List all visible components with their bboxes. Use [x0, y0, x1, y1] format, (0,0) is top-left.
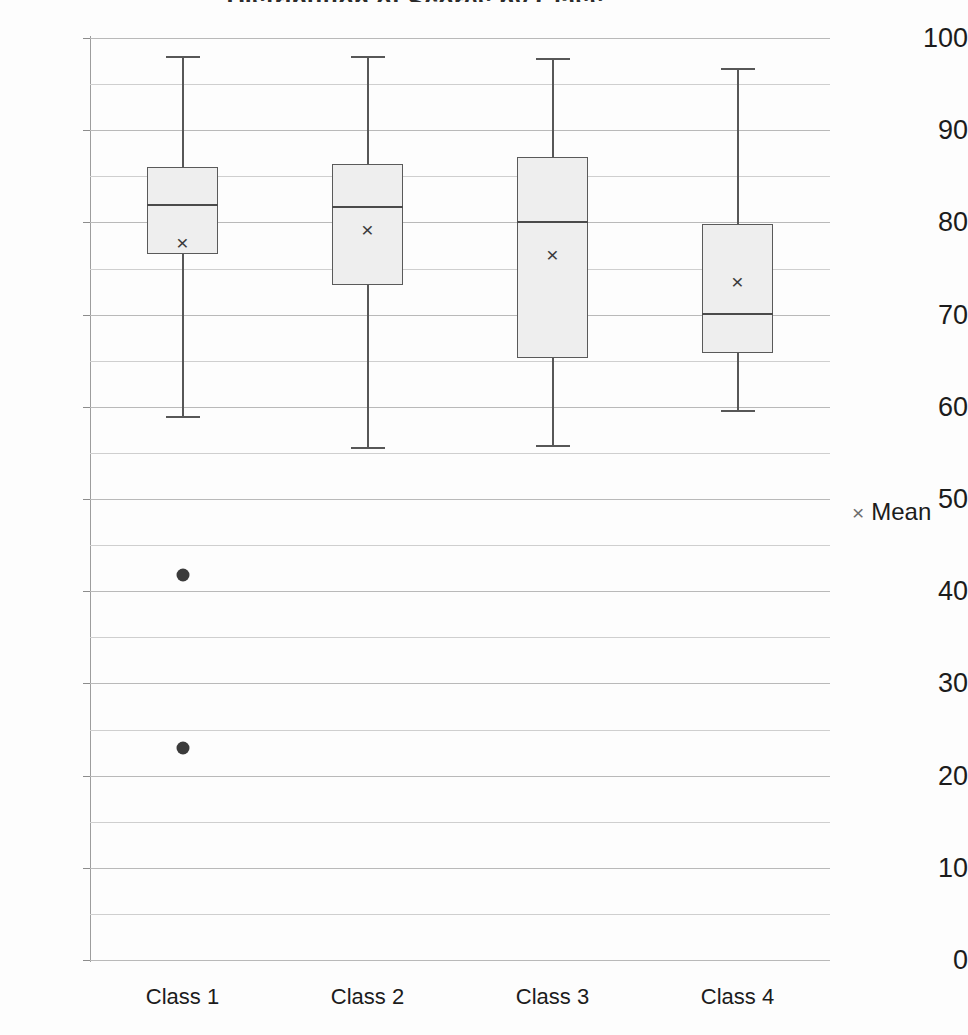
boxplot-chart-figure: Distribution of Scores by Class 10090807… — [0, 0, 968, 1035]
y-axis-tick-mark — [83, 407, 90, 408]
y-axis-tick-label: 0 — [894, 945, 968, 976]
y-axis-tick-mark — [83, 960, 90, 961]
x-axis-tick-label-4: Class 4 — [701, 984, 774, 1010]
y-axis-tick-label: 30 — [894, 668, 968, 699]
y-axis-tick-mark — [83, 776, 90, 777]
y-axis-tick-label: 80 — [894, 207, 968, 238]
y-axis-tick-label: 60 — [894, 391, 968, 422]
whisker-lower — [737, 353, 739, 409]
legend: × Mean — [852, 498, 931, 526]
y-axis-tick-mark — [83, 683, 90, 684]
y-axis-tick-mark — [83, 222, 90, 223]
y-axis-tick-mark — [83, 591, 90, 592]
plot-area: ×××× — [90, 38, 830, 960]
box-plot-4[interactable]: × — [90, 38, 830, 960]
mean-x-marker-icon: × — [852, 502, 864, 523]
y-axis-tick-label: 10 — [894, 852, 968, 883]
legend-label-mean: Mean — [871, 498, 931, 526]
y-axis-tick-mark — [83, 38, 90, 39]
x-axis-tick-label-2: Class 2 — [331, 984, 404, 1010]
y-axis-tick-label: 20 — [894, 760, 968, 791]
y-axis-tick-mark — [83, 315, 90, 316]
y-axis-tick-label: 90 — [894, 115, 968, 146]
y-axis-tick-mark — [83, 868, 90, 869]
mean-marker: × — [731, 271, 743, 292]
y-axis-tick-label: 70 — [894, 299, 968, 330]
gridline-major — [90, 960, 830, 961]
y-axis-tick-label: 40 — [894, 576, 968, 607]
median-line — [702, 313, 773, 315]
page-title: Distribution of Scores by Class — [0, 0, 830, 2]
whisker-cap-lower — [721, 410, 755, 412]
whisker-upper — [737, 68, 739, 225]
y-axis-tick-mark — [83, 130, 90, 131]
y-axis-tick-label: 100 — [894, 23, 968, 54]
x-axis-tick-label-1: Class 1 — [146, 984, 219, 1010]
y-axis-tick-mark — [83, 499, 90, 500]
x-axis-tick-label-3: Class 3 — [516, 984, 589, 1010]
whisker-cap-upper — [721, 68, 755, 70]
